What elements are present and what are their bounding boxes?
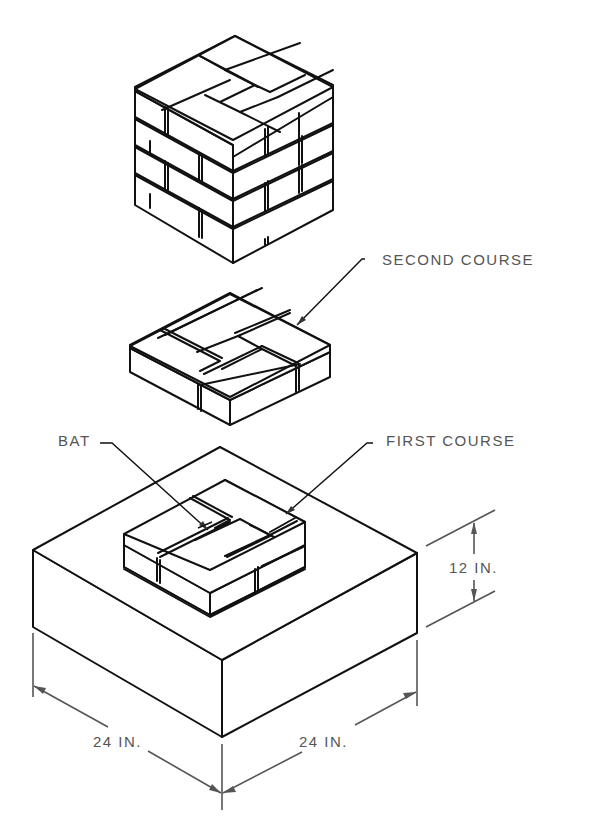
- second-course: [130, 288, 330, 425]
- second-course-leader: [297, 259, 365, 325]
- right-width-dimension-label: 24 IN.: [299, 733, 348, 750]
- first-course-leader: [286, 443, 373, 514]
- bat-label: BAT: [58, 432, 91, 449]
- first-course-label: FIRST COURSE: [386, 432, 515, 449]
- assembled-pier: [135, 36, 333, 263]
- left-width-dimension-label: 24 IN.: [93, 733, 142, 750]
- second-course-label: SECOND COURSE: [382, 251, 534, 268]
- height-dimension-label: 12 IN.: [449, 559, 498, 576]
- brick-pier-diagram: SECOND COURSE BAT: [0, 0, 604, 833]
